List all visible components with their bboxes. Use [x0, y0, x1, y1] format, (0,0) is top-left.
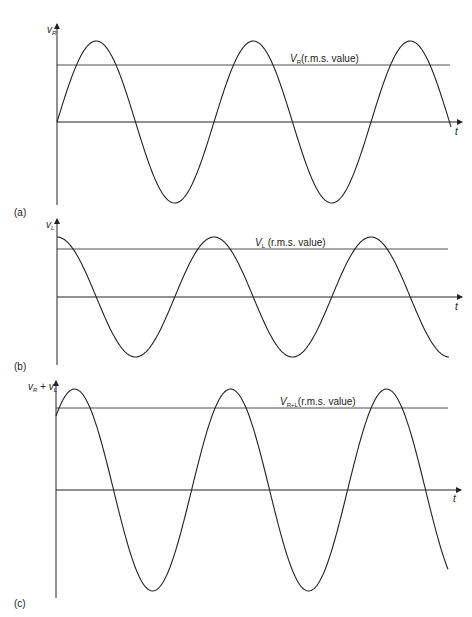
panel-b: vL t VL (r.m.s. value) (b) [14, 219, 462, 372]
panel-c: vR + vL t VR+L(r.m.s. value) (c) [14, 381, 461, 609]
panel-tag: (a) [14, 207, 26, 218]
x-axis-label: t [455, 301, 459, 312]
waveform-diagram: vR t VR(r.m.s. value) (a) vL t VL (r.m.s… [0, 0, 472, 617]
x-axis-label: t [455, 126, 459, 137]
rms-label: VR+L(r.m.s. value) [280, 396, 356, 408]
rms-label: VR(r.m.s. value) [290, 53, 359, 65]
y-axis-label: vR + vL [28, 381, 57, 393]
rms-label: VL (r.m.s. value) [255, 237, 326, 249]
y-axis-label: vR [47, 24, 57, 36]
x-axis-label: t [453, 493, 457, 504]
panel-tag: (c) [14, 598, 26, 609]
panel-tag: (b) [14, 361, 26, 372]
y-axis-label: vL [46, 219, 54, 231]
panel-a: vR t VR(r.m.s. value) (a) [14, 24, 462, 218]
